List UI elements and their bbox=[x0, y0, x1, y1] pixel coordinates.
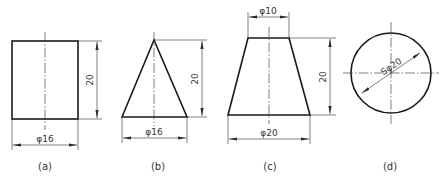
height-dimension-text: 20 bbox=[85, 74, 95, 86]
figure-b-cone: 20 φ16 (b) bbox=[122, 32, 207, 172]
figure-c-truncated-cone: φ10 20 φ20 (c) bbox=[228, 6, 336, 172]
diameter-dimension-text: Sφ20 bbox=[379, 56, 404, 78]
figure-caption: (a) bbox=[38, 161, 52, 172]
cone-outline bbox=[122, 40, 187, 117]
figure-a-cylinder: 20 φ16 (a) bbox=[12, 32, 102, 172]
diameter-dimension-text: φ16 bbox=[145, 127, 163, 137]
drawing-canvas: 20 φ16 (a) 20 φ16 (b) φ10 20 bbox=[0, 0, 444, 183]
height-dimension-text: 20 bbox=[318, 71, 328, 83]
figure-caption: (c) bbox=[263, 161, 276, 172]
height-dimension-text: 20 bbox=[190, 73, 200, 85]
figure-caption: (b) bbox=[151, 161, 165, 172]
top-diameter-dimension-text: φ10 bbox=[259, 6, 277, 16]
figure-caption: (d) bbox=[383, 161, 397, 172]
diameter-dimension-text: φ16 bbox=[36, 134, 54, 144]
bottom-diameter-dimension-text: φ20 bbox=[260, 128, 278, 138]
figure-d-sphere: Sφ20 (d) bbox=[343, 22, 439, 172]
